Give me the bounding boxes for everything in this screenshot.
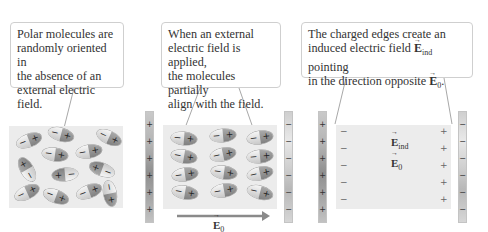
minus-sign: −: [285, 155, 292, 163]
minus-sign: −: [340, 126, 348, 136]
callout-text-line: align with the field.: [168, 97, 274, 111]
minus-sign: −: [285, 121, 292, 129]
callout-text-line: Polar molecules are: [17, 27, 117, 41]
polar-molecule: −+: [209, 128, 236, 143]
subscript-ind: ind: [398, 142, 408, 151]
callout-text-line: When an external: [168, 27, 274, 41]
minus-sign: −: [285, 172, 292, 180]
minus-sign: −: [285, 206, 292, 214]
plus-sign: +: [440, 126, 448, 136]
plus-sign: +: [146, 138, 153, 146]
e-vector-symbol: E: [391, 157, 398, 169]
callout-text-line: external electric field.: [17, 83, 117, 111]
plus-sign: +: [146, 155, 153, 163]
plus-sign: +: [440, 160, 448, 170]
e-vector-symbol: E: [414, 41, 422, 55]
plus-sign: +: [440, 143, 448, 153]
text-fragment: in the direction opposite: [308, 74, 429, 88]
text-fragment: pointing: [308, 60, 349, 74]
plus-sign: +: [440, 177, 448, 187]
subscript-ind: ind: [422, 48, 432, 57]
callout-panel3: The charged edges create an induced elec…: [301, 22, 473, 78]
capacitor-plate-positive: + + + + + +: [145, 111, 154, 223]
subscript-0: 0: [398, 163, 402, 172]
e0-label-panel3: E0: [391, 157, 402, 172]
plus-sign: +: [319, 138, 326, 146]
plus-sign: +: [146, 189, 153, 197]
plus-sign: +: [440, 194, 448, 204]
e-vector-symbol: E: [213, 219, 220, 231]
minus-sign: −: [340, 143, 348, 153]
minus-sign: −: [340, 160, 348, 170]
e-vector-symbol: E: [429, 74, 437, 88]
capacitor-plate-positive: + + + + + +: [318, 111, 327, 223]
callout-panel2: When an external electric field is appli…: [161, 22, 281, 88]
callout-text-line: The charged edges create an: [308, 27, 466, 41]
callout-text-line: electric field is applied,: [168, 41, 274, 69]
e-ind-inline: Eind: [414, 41, 432, 55]
e-vector-symbol: E: [391, 136, 398, 148]
minus-sign: −: [459, 155, 466, 163]
minus-sign: −: [285, 189, 292, 197]
plus-sign: +: [319, 155, 326, 163]
plus-sign: +: [319, 121, 326, 129]
subscript-0: 0: [220, 225, 224, 232]
minus-sign: −: [459, 121, 466, 129]
capacitor-plate-negative: − − − − − −: [284, 111, 293, 223]
plus-sign: +: [319, 172, 326, 180]
callout-text-line: the absence of an: [17, 69, 117, 83]
polar-molecule: −+: [246, 149, 273, 164]
callout-panel1: Polar molecules are randomly oriented in…: [10, 22, 124, 88]
polar-molecule: −+: [51, 167, 78, 182]
minus-sign: −: [340, 194, 348, 204]
text-fragment: .: [441, 74, 444, 88]
plus-sign: +: [146, 121, 153, 129]
plus-sign: +: [146, 172, 153, 180]
callout-text-line: induced electric field Eind pointing: [308, 41, 466, 74]
e0-label: E0: [213, 219, 224, 232]
capacitor-plate-negative: − − − − − −: [458, 111, 467, 223]
minus-sign: −: [340, 177, 348, 187]
minus-sign: −: [459, 138, 466, 146]
minus-sign: −: [459, 206, 466, 214]
minus-sign: −: [459, 172, 466, 180]
minus-sign: −: [285, 138, 292, 146]
plus-sign: +: [319, 189, 326, 197]
e0-inline: E0: [429, 74, 441, 88]
callout-text-line: randomly oriented in: [17, 41, 117, 69]
e0-arrow-head: [262, 211, 270, 221]
callout-text-line: in the direction opposite E0.: [308, 74, 466, 93]
polar-molecule: −+: [170, 131, 197, 146]
plus-sign: +: [319, 206, 326, 214]
callout-text-line: the molecules partially: [168, 69, 274, 97]
plus-sign: +: [146, 206, 153, 214]
minus-sign: −: [459, 189, 466, 197]
text-fragment: induced electric field: [308, 41, 414, 55]
